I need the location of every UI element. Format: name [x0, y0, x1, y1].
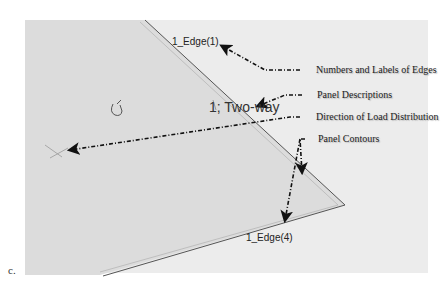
- callout-direction-load-distribution: Direction of Load Distribution: [316, 111, 438, 122]
- figure-tag: c.: [8, 264, 16, 276]
- edge-top-label: 1_Edge(1): [172, 36, 219, 47]
- edge-bottom-label: 1_Edge(4): [246, 232, 293, 243]
- panel-diagram: [0, 0, 444, 295]
- panel-description-label: 1; Two-way: [209, 99, 280, 115]
- callout-panel-descriptions: Panel Descriptions: [317, 89, 392, 100]
- panel-shape: [25, 20, 345, 275]
- callout-panel-contours: Panel Contours: [318, 133, 379, 144]
- callout-numbers-labels-edges: Numbers and Labels of Edges: [316, 64, 437, 75]
- callout-leader-edges: [222, 46, 300, 70]
